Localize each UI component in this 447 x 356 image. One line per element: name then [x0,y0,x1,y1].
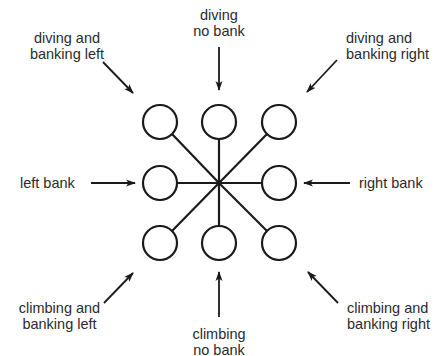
label-line: no bank [179,23,259,39]
label-line: right bank [359,175,423,191]
circle-climbing-banking-right [262,226,296,260]
hub-dot [217,181,221,185]
arrow-diving-banking-right [307,60,337,92]
label-line: banking right [347,316,430,332]
label-diving-banking-left: diving and banking left [17,30,117,62]
arrow-climbing-banking-left [104,273,133,303]
arrow-climbing-banking-right [308,272,338,303]
circle-right-bank [262,166,296,200]
label-line: diving and [17,30,117,46]
label-line: no bank [179,342,259,356]
circle-climbing-banking-left [143,226,177,260]
label-diving-banking-right: diving and banking right [346,30,429,62]
label-line: banking left [17,46,117,62]
label-line: left bank [20,175,75,191]
circle-diving-banking-right [262,105,296,139]
label-right-bank: right bank [359,175,423,191]
label-line: climbing and [347,300,430,316]
spoke-top-left [172,134,219,183]
label-diving-no-bank: diving no bank [179,7,259,39]
spoke-bottom-left [172,183,219,231]
arrow-diving-banking-left [103,62,133,93]
label-line: banking right [346,46,429,62]
label-climbing-banking-right: climbing and banking right [347,300,430,332]
circle-climbing-no-bank [202,226,236,260]
spoke-bottom-right [219,183,267,231]
label-climbing-banking-left: climbing and banking left [7,300,112,332]
label-line: climbing [179,326,259,342]
circle-diving-no-bank [202,105,236,139]
label-climbing-no-bank: climbing no bank [179,326,259,356]
label-left-bank: left bank [20,175,75,191]
label-line: banking left [7,316,112,332]
label-line: diving [179,7,259,23]
circle-left-bank [143,166,177,200]
spoke-top-right [219,134,267,183]
label-line: climbing and [7,300,112,316]
label-line: diving and [346,30,429,46]
circle-diving-banking-left [143,105,177,139]
